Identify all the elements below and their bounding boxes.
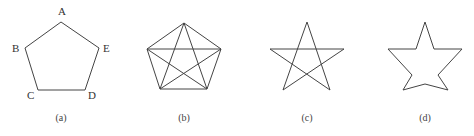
diagonal-1 — [184, 23, 207, 89]
figure-c-pentagram: (c) — [270, 22, 344, 124]
vertex-label-a: A — [58, 5, 66, 17]
diagonal-5 — [160, 49, 221, 89]
diagonal-2 — [160, 23, 184, 89]
figure-b-complete-pentagon: (b) — [147, 23, 221, 124]
star-outline-shape — [388, 22, 462, 90]
vertex-label-b: B — [12, 42, 19, 54]
pentagram-shape — [270, 22, 344, 90]
caption-a: (a) — [55, 112, 66, 124]
figure-d-star-outline: (d) — [388, 22, 462, 124]
caption-b: (b) — [178, 112, 190, 124]
caption-d: (d) — [419, 112, 431, 124]
figure-a-pentagon: A B E C D (a) — [12, 5, 110, 124]
vertex-label-e: E — [103, 42, 110, 54]
diagonal-4 — [147, 49, 207, 89]
caption-c: (c) — [301, 112, 312, 124]
vertex-label-c: C — [27, 89, 34, 101]
vertex-label-d: D — [88, 89, 96, 101]
pentagon-shape — [25, 22, 99, 90]
geometry-figures: A B E C D (a) (b) (c) (d) — [0, 0, 474, 136]
